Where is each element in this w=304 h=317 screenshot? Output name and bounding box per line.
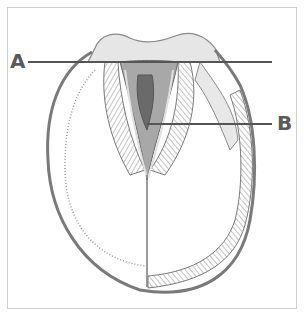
label-b: B: [277, 113, 292, 133]
heel-bulbs: [88, 33, 220, 62]
hoof-sketch: [0, 0, 304, 317]
label-a: A: [10, 51, 25, 71]
wall-fold: [195, 62, 238, 150]
